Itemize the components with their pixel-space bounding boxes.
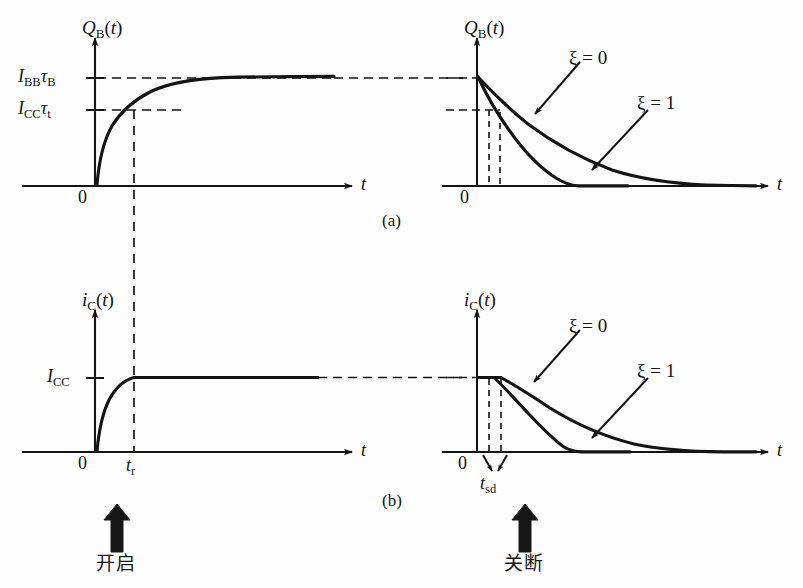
y-axis-label-b-right: iC(t) [464, 290, 496, 312]
y-axis-label-b-left: iC(t) [82, 290, 114, 312]
pointer-xi0-a [535, 62, 580, 114]
t-axis-label-a-left: t [361, 175, 366, 193]
tick-label-icc-taut: ICCτt [18, 99, 51, 120]
curve-label-xi1-a: ξ = 1 [637, 93, 675, 112]
subfigure-label-a: (a) [382, 212, 401, 229]
curve-qb-xi0 [478, 77, 756, 186]
panel-b-left [22, 310, 468, 452]
curve-ic-xi0 [478, 378, 756, 452]
origin-label-a-right: 0 [460, 188, 469, 206]
y-axis-label-a-right: QB(t) [464, 18, 504, 40]
pointer-xi0-b [534, 330, 580, 382]
tsd-measure-right-arrow [498, 455, 507, 471]
tsd-measure-left-arrow [483, 455, 492, 471]
origin-label-b-right: 0 [458, 454, 467, 472]
origin-label-b-left: 0 [78, 454, 87, 472]
time-marker-tr: tr [126, 456, 135, 477]
curve-label-xi1-b: ξ = 1 [637, 361, 675, 380]
y-axis-label-a-left: QB(t) [82, 18, 122, 40]
turn-off-callout-arrow [512, 504, 538, 552]
tick-label-ibb-taub: IBBτB [18, 67, 55, 88]
curve-qb-rising [97, 76, 334, 185]
t-axis-label-a-right: t [777, 175, 782, 193]
curve-ic-rising [97, 378, 318, 452]
delay-marker-tsd: tsd [480, 474, 496, 495]
t-axis-label-b-left: t [361, 441, 366, 459]
pointer-xi1-a [592, 110, 648, 170]
turn-on-callout-arrow [104, 504, 130, 552]
tick-label-icc-b-left: ICC [47, 367, 70, 388]
curve-label-xi0-b: ξ = 0 [569, 316, 607, 335]
curve-label-xi0-a: ξ = 0 [569, 48, 607, 67]
turn-off-label: 关断 [504, 554, 544, 573]
subfigure-label-b: (b) [382, 492, 402, 509]
origin-label-a-left: 0 [78, 188, 87, 206]
t-axis-label-b-right: t [777, 441, 782, 459]
turn-on-label: 开启 [96, 554, 136, 573]
pointer-xi1-b [592, 378, 648, 438]
panel-a-left [22, 38, 352, 186]
figure-page: QB(t) IBBτB ICCτt 0 t QB(t) 0 t ξ = 0 ξ … [0, 0, 803, 588]
